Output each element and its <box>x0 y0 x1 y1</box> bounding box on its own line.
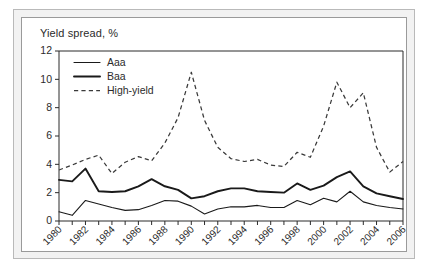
legend-label: High-yield <box>107 84 154 96</box>
x-tick-label: 2000 <box>305 223 329 247</box>
y-tick-label: 10 <box>40 73 52 85</box>
legend-label: Aaa <box>107 56 126 68</box>
y-tick-label: 2 <box>46 186 52 198</box>
x-tick-label: 2006 <box>384 223 408 247</box>
figure-card: Yield spread, % 024681012198019821984198… <box>13 9 415 259</box>
y-tick-label: 12 <box>40 44 52 56</box>
series-line-aaa <box>59 191 403 215</box>
x-tick-label: 1982 <box>67 223 91 247</box>
chart-panel: Yield spread, % 024681012198019821984198… <box>21 17 407 252</box>
line-chart: 0246810121980198219841986198819901992199… <box>22 18 408 253</box>
y-tick-label: 0 <box>46 214 52 226</box>
x-tick-label: 1984 <box>93 223 117 247</box>
y-tick-label: 4 <box>46 158 52 170</box>
x-tick-label: 1994 <box>226 223 250 247</box>
series-line-baa <box>59 169 403 199</box>
x-tick-label: 1986 <box>120 223 144 247</box>
x-tick-label: 2002 <box>331 223 355 247</box>
x-tick-label: 1998 <box>279 223 303 247</box>
y-tick-label: 8 <box>46 101 52 113</box>
y-tick-label: 6 <box>46 129 52 141</box>
legend-label: Baa <box>107 70 126 82</box>
x-tick-label: 1980 <box>40 223 64 247</box>
x-tick-label: 2004 <box>358 223 382 247</box>
x-tick-label: 1992 <box>199 223 223 247</box>
x-tick-label: 1996 <box>252 223 276 247</box>
x-tick-label: 1990 <box>173 223 197 247</box>
x-tick-label: 1988 <box>146 223 170 247</box>
